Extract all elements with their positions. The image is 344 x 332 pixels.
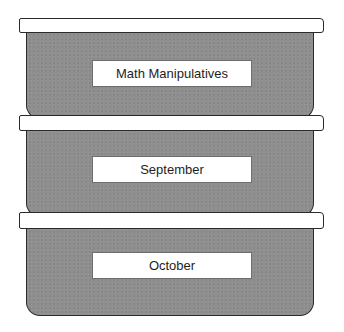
bin-label-text-2: September <box>140 162 204 177</box>
bin-label-text-3: October <box>149 258 195 273</box>
bin-label-text-1: Math Manipulatives <box>116 66 228 81</box>
bin-label-3: October <box>92 252 252 279</box>
bin-lid-1 <box>19 18 324 33</box>
bin-lid-3 <box>19 212 324 229</box>
bin-lid-2 <box>19 115 324 131</box>
bin-label-2: September <box>92 156 252 183</box>
bin-label-1: Math Manipulatives <box>92 60 252 87</box>
